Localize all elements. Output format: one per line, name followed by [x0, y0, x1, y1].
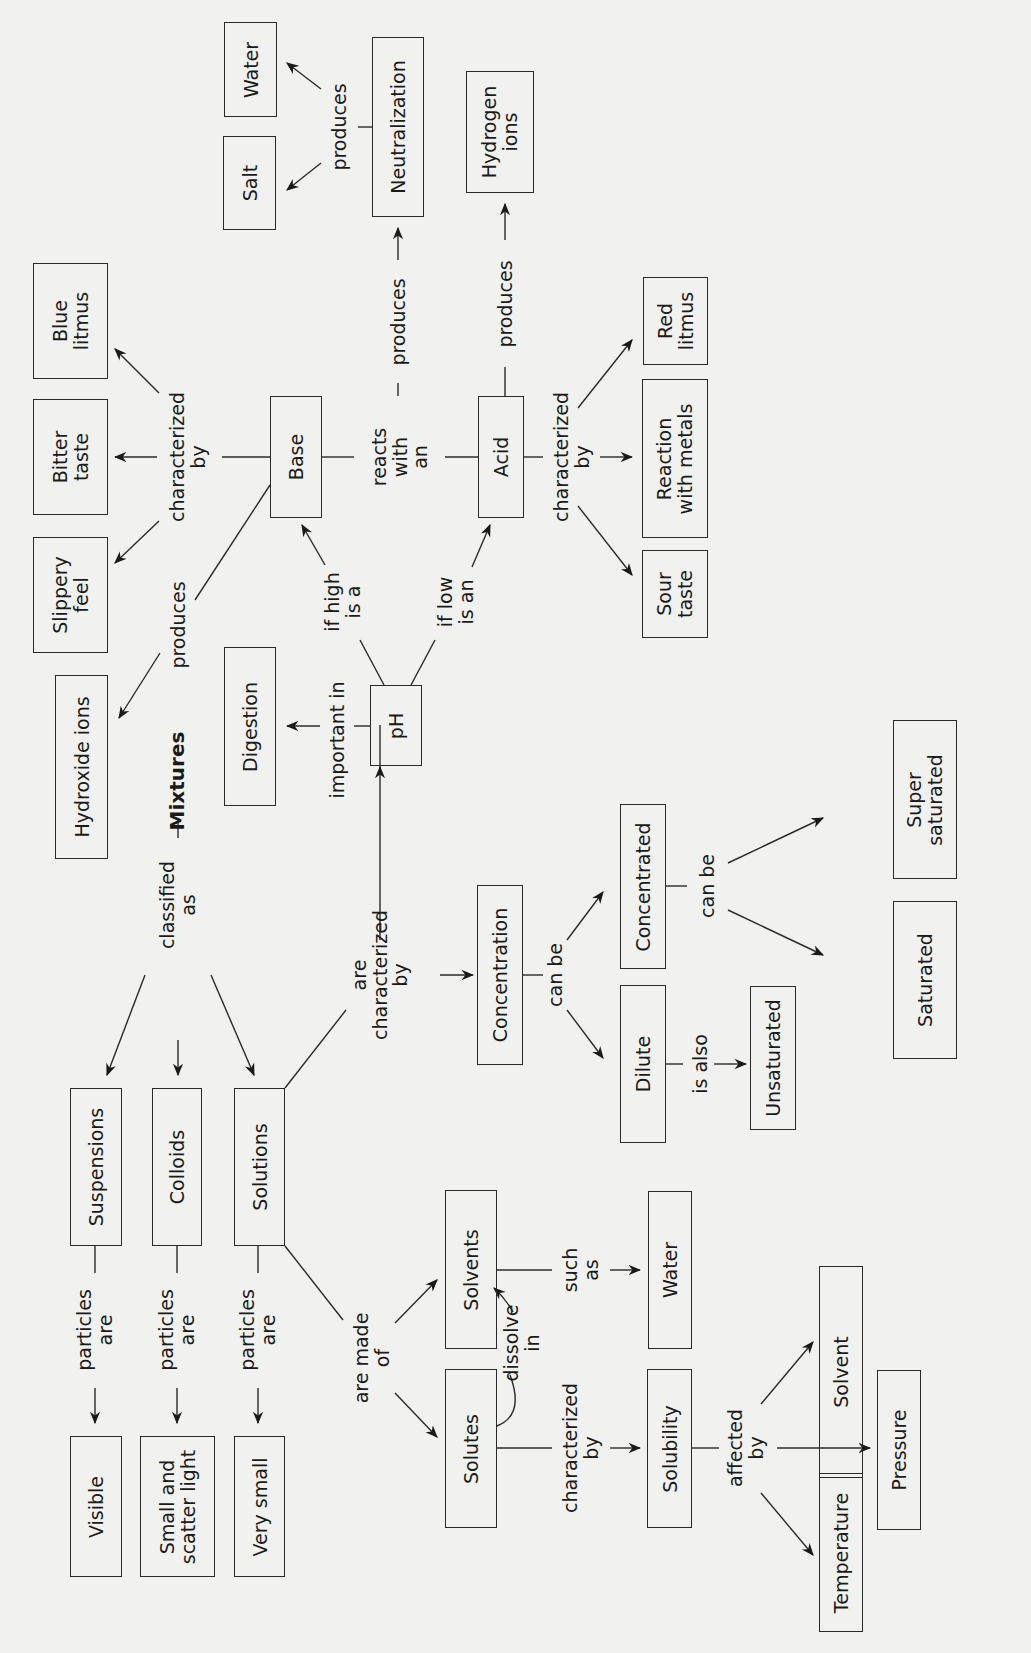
node-water-bottom: Water [648, 1191, 692, 1349]
concept-map: Water Salt Neutralization Hydrogen ions … [0, 0, 1031, 1653]
node-super-saturated: Super saturated [893, 720, 957, 879]
node-saturated: Saturated [893, 901, 957, 1059]
node-very-small: Very small [234, 1436, 285, 1577]
node-suspensions: Suspensions [70, 1088, 122, 1246]
node-temperature: Temperature [819, 1473, 863, 1632]
node-blue-litmus: Blue litmus [33, 263, 108, 379]
node-neutralization: Neutralization [372, 37, 424, 217]
node-sour-taste: Sour taste [642, 550, 708, 638]
node-solubility: Solubility [647, 1369, 692, 1528]
node-digestion: Digestion [224, 647, 276, 806]
node-reaction-with-metals: Reaction with metals [642, 379, 708, 538]
node-pressure: Pressure [877, 1370, 921, 1530]
node-colloids: Colloids [152, 1088, 202, 1246]
node-small-scatter-light: Small and scatter light [140, 1436, 215, 1577]
node-hydrogen-ions: Hydrogen ions [466, 71, 534, 193]
node-solvent: Solvent [819, 1266, 863, 1478]
node-salt: Salt [223, 136, 276, 230]
node-concentration: Concentration [477, 885, 523, 1065]
node-solutions: Solutions [234, 1088, 285, 1246]
node-water-top: Water [224, 22, 277, 117]
node-slippery-feel: Slippery feel [33, 537, 108, 653]
node-solutes: Solutes [445, 1369, 497, 1528]
node-red-litmus: Red litmus [643, 277, 708, 365]
node-base: Base [270, 396, 322, 518]
node-visible: Visible [70, 1436, 122, 1577]
node-acid: Acid [478, 396, 524, 518]
node-ph: pH [370, 685, 422, 766]
node-unsaturated: Unsaturated [750, 986, 796, 1130]
node-hydroxide-ions: Hydroxide ions [55, 675, 108, 859]
node-bitter-taste: Bitter taste [33, 399, 108, 515]
node-dilute: Dilute [620, 985, 666, 1143]
node-concentrated: Concentrated [620, 804, 666, 969]
node-solvents: Solvents [445, 1190, 497, 1349]
